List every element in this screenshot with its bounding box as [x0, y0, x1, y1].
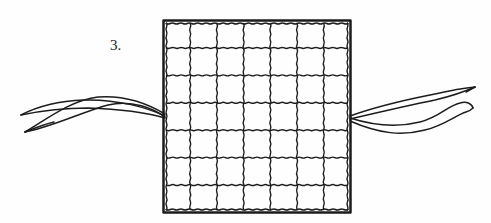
grid-line-horizontal [167, 185, 348, 186]
grid-line-horizontal [167, 157, 348, 158]
grid-line-horizontal [167, 75, 348, 76]
right-ribbon-lower-edge-bottom [350, 108, 473, 133]
grid-line-horizontal [167, 47, 348, 48]
patch-outer-border [164, 21, 351, 213]
grid-line-vertical [216, 24, 217, 210]
right-ribbon-upper-edge-top [350, 87, 475, 116]
right-ribbon-upper-edge-bottom [350, 87, 475, 119]
grid-line-horizontal [167, 102, 348, 103]
grid-lines [166, 23, 348, 210]
woven-ribbon-square-illustration [0, 0, 491, 223]
grid-line-horizontal [167, 130, 348, 131]
patch-border-wavy-bottom [166, 209, 348, 210]
patch-border-wavy-right [347, 23, 348, 210]
patch-border-wavy-left [166, 23, 167, 210]
grid-line-vertical [270, 24, 271, 210]
left-ribbon-ends [21, 97, 165, 132]
right-ribbon-lower-edge-top [350, 102, 473, 125]
woven-grid [164, 21, 351, 213]
grid-line-vertical [323, 24, 324, 210]
grid-line-vertical [297, 24, 298, 210]
figure-canvas: 3. [0, 0, 491, 223]
grid-line-vertical [190, 24, 191, 210]
patch-border-wavy-top [166, 23, 348, 24]
grid-line-vertical [243, 24, 244, 210]
right-ribbon-ends [350, 87, 475, 133]
